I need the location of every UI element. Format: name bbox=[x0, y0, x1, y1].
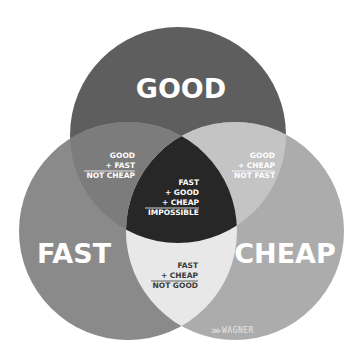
label-fast: FAST bbox=[37, 238, 112, 269]
logo-text: WAGNER bbox=[222, 326, 254, 335]
svg-text:+ CHEAP: + CHEAP bbox=[162, 198, 200, 207]
svg-text:+ FAST: + FAST bbox=[106, 161, 136, 170]
venn-diagram: GOOD FAST CHEAP GOOD + FAST NOT CHEAP GO… bbox=[0, 0, 363, 361]
svg-text:FAST: FAST bbox=[178, 178, 199, 187]
svg-text:IMPOSSIBLE: IMPOSSIBLE bbox=[148, 208, 199, 217]
svg-text:GOOD: GOOD bbox=[250, 151, 275, 160]
svg-text:+ CHEAP: + CHEAP bbox=[238, 161, 276, 170]
svg-text:+ GOOD: + GOOD bbox=[165, 188, 199, 197]
svg-text:+ CHEAP: + CHEAP bbox=[161, 271, 199, 280]
svg-text:GOOD: GOOD bbox=[110, 151, 135, 160]
svg-text:NOT FAST: NOT FAST bbox=[234, 171, 276, 180]
label-cheap: CHEAP bbox=[234, 238, 336, 269]
svg-text:NOT CHEAP: NOT CHEAP bbox=[86, 171, 135, 180]
svg-text:NOT GOOD: NOT GOOD bbox=[152, 281, 198, 290]
svg-text:FAST: FAST bbox=[177, 261, 198, 270]
logo-mark-icon: ⋙ bbox=[211, 327, 221, 335]
wagner-logo: ⋙ WAGNER bbox=[211, 326, 254, 335]
label-good: GOOD bbox=[136, 73, 226, 104]
